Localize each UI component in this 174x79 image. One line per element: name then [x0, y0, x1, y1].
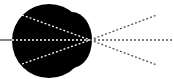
- ray-lower-right: [90, 40, 157, 65]
- ray-upper-right: [90, 15, 157, 40]
- ray-diagram: [0, 0, 174, 79]
